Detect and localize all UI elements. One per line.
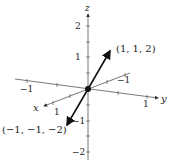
z-tick-2: 2 [75,21,81,31]
vector-label-neg: (−1, −1, −2) [2,124,67,135]
z-axis-label: z [84,3,90,13]
y-tick-1: 1 [143,99,149,109]
3d-axes-diagram: z y x 2 1 −1 −2 −1 1 −1 1 (1, 1, 2) (−1,… [0,0,170,168]
y-tick-neg1: −1 [20,84,33,94]
z-tick-neg2: −2 [72,147,85,157]
y-axis-label: y [160,93,167,104]
x-tick-1: 1 [54,107,60,117]
origin-point [85,86,91,92]
vector-label-1-1-2: (1, 1, 2) [116,43,156,54]
z-tick-1: 1 [75,52,81,62]
x-tick-neg1: −1 [117,75,130,85]
x-axis-label: x [33,102,39,113]
z-tick-neg1: −1 [72,116,85,126]
